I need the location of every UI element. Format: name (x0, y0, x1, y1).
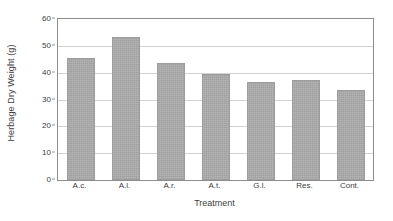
bar (247, 82, 275, 180)
x-tick-label: Res. (291, 181, 319, 190)
x-tick-label: A.l. (111, 181, 139, 190)
x-axis-ticks: A.c.A.l.A.r.A.t.G.l.Res.Cont. (57, 181, 372, 193)
bar-series (58, 19, 373, 180)
y-axis-title: Herbage Dry Weight (g) (0, 0, 22, 185)
y-tick-label: 10 (42, 148, 51, 157)
y-tick-label: 60 (42, 14, 51, 23)
plot-area (57, 18, 374, 181)
bar (292, 80, 320, 180)
x-tick-label: Cont. (336, 181, 364, 190)
y-tick-mark (52, 71, 55, 72)
bar (202, 74, 230, 180)
bar (337, 90, 365, 180)
y-tick-mark (52, 152, 55, 153)
y-tick-mark (52, 98, 55, 99)
x-tick-label: G.l. (246, 181, 274, 190)
y-tick-label: 0 (47, 175, 51, 184)
y-tick-mark (52, 125, 55, 126)
x-tick-label: A.t. (201, 181, 229, 190)
y-tick-label: 40 (42, 67, 51, 76)
y-tick-label: 30 (42, 94, 51, 103)
y-tick-label: 20 (42, 121, 51, 130)
bar-chart-figure: Herbage Dry Weight (g) 0102030405060 A.c… (0, 0, 393, 221)
x-tick-label: A.r. (156, 181, 184, 190)
bar (112, 37, 140, 180)
bar (67, 58, 95, 180)
y-tick-label: 50 (42, 40, 51, 49)
bar (157, 63, 185, 180)
x-axis-title: Treatment (57, 198, 372, 208)
y-axis-ticks: 0102030405060 (22, 0, 55, 221)
y-tick-mark (52, 179, 55, 180)
y-axis-title-text: Herbage Dry Weight (g) (6, 44, 16, 141)
y-tick-mark (52, 44, 55, 45)
x-tick-label: A.c. (66, 181, 94, 190)
y-tick-mark (52, 18, 55, 19)
